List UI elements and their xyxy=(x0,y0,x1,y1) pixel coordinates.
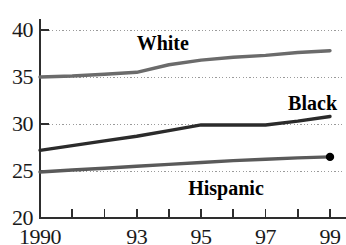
series-line-black xyxy=(40,116,330,150)
y-axis-label-40: 40 xyxy=(12,19,33,41)
x-axis-label-97: 97 xyxy=(253,226,279,245)
x-axis-label-1990: 1990 xyxy=(17,226,63,245)
series-line-hispanic xyxy=(40,157,330,172)
y-axis-label-25: 25 xyxy=(12,160,33,182)
y-axis-label-35: 35 xyxy=(12,66,33,88)
series-line-white xyxy=(40,51,330,77)
series-label-hispanic: Hispanic xyxy=(188,178,264,198)
x-axis-label-93: 93 xyxy=(124,226,150,245)
y-axis-label-30: 30 xyxy=(12,113,33,135)
x-tick-marks-group xyxy=(72,209,330,218)
series-endpoint-marker-hispanic xyxy=(326,153,334,161)
series-label-white: White xyxy=(137,33,189,53)
x-axis-label-99: 99 xyxy=(317,226,343,245)
series-label-black: Black xyxy=(288,93,337,113)
x-axis-label-95: 95 xyxy=(188,226,214,245)
line-chart: 4035302520 199093959799 WhiteBlackHispan… xyxy=(0,0,346,245)
